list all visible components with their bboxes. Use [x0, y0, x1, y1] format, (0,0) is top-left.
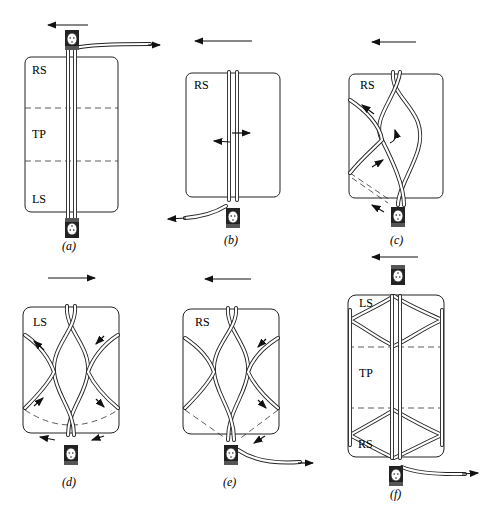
label-rs: RS: [32, 63, 47, 78]
rope-clip-icon: [224, 445, 238, 465]
label-rs: RS: [358, 437, 373, 452]
rope-clip-icon: [64, 445, 78, 465]
lashing-diagram: [0, 0, 492, 517]
label-ls: LS: [32, 192, 46, 207]
panel-b: [168, 41, 280, 228]
caption-e: (e): [223, 475, 236, 490]
panel-d: [23, 278, 119, 465]
caption-d: (d): [62, 475, 76, 490]
rope-clip-icon: [391, 265, 405, 285]
rope-clip-icon: [389, 466, 403, 486]
label-ls: LS: [33, 315, 47, 330]
caption-c: (c): [390, 233, 403, 248]
label-rs: RS: [360, 78, 375, 93]
label-tp: TP: [32, 127, 46, 142]
caption-f: (f): [390, 487, 401, 502]
panel-c: [349, 42, 443, 227]
rope-clip-icon: [65, 218, 79, 238]
panel-e: [183, 279, 313, 465]
label-tp: TP: [359, 366, 373, 381]
rope-clip-icon: [226, 208, 240, 228]
label-rs: RS: [194, 78, 209, 93]
label-ls: LS: [359, 296, 373, 311]
caption-a: (a): [62, 239, 76, 254]
rope-clip-icon: [65, 30, 79, 50]
rope-clip-icon: [391, 207, 405, 227]
label-rs: RS: [195, 315, 210, 330]
caption-b: (b): [224, 233, 238, 248]
